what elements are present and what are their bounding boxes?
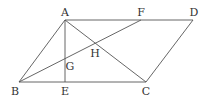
geometry-diagram: A F D B E C G H [0, 0, 211, 104]
label-H: H [90, 47, 100, 60]
segments [19, 20, 193, 82]
label-E: E [61, 85, 69, 98]
segment-AB [19, 20, 65, 82]
label-G: G [66, 60, 75, 73]
segment-DC [146, 20, 193, 82]
label-D: D [190, 6, 199, 19]
segment-AC [65, 20, 146, 82]
label-A: A [60, 6, 70, 19]
label-C: C [142, 85, 150, 98]
segment-BF [19, 20, 141, 82]
label-F: F [137, 6, 145, 19]
label-B: B [11, 85, 19, 98]
